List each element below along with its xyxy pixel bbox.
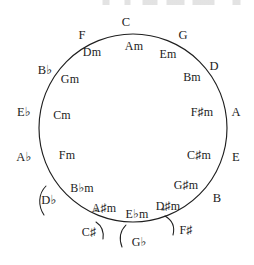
f-sharp-bracket [165,216,174,235]
major-key-e: E [232,151,240,164]
minor-key-ebm: E♭m [126,208,149,220]
minor-key-fsm: F♯m [191,106,214,118]
minor-key-csm: C♯m [187,149,211,161]
major-key-bb: B♭ [38,64,53,77]
enharmonic-key-cs: C♯ [82,226,96,238]
major-key-db: D♭ [41,194,56,207]
enharmonic-key-fs: F♯ [179,224,192,236]
enharmonic-key-gb: G♭ [132,236,147,248]
major-key-g: G [178,29,187,42]
minor-key-gsm: G♯m [174,179,199,191]
minor-key-am: Am [125,40,143,52]
major-key-c: C [122,16,131,29]
g-flat-bracket [120,225,126,247]
minor-key-dsm: D♯m [156,200,181,212]
major-key-f: F [78,29,85,42]
major-key-d: D [209,60,218,73]
major-key-b: B [213,192,222,205]
major-key-a: A [231,106,240,119]
major-key-ab: A♭ [16,151,31,164]
asterisk-marker: * [161,206,166,216]
asterisk-marker: * [94,207,99,217]
minor-key-cm: Cm [53,109,71,121]
minor-key-gm: Gm [61,73,79,85]
major-key-eb: E♭ [17,106,31,119]
c-sharp-bracket [96,222,103,239]
minor-key-em: Em [159,48,176,60]
minor-key-dm: Dm [83,46,101,58]
minor-key-bm: Bm [183,71,201,83]
enharmonic-brackets [40,186,174,247]
fifths-circle [39,34,227,222]
minor-key-fm: Fm [59,149,75,161]
minor-key-bbm: B♭m [70,182,94,194]
